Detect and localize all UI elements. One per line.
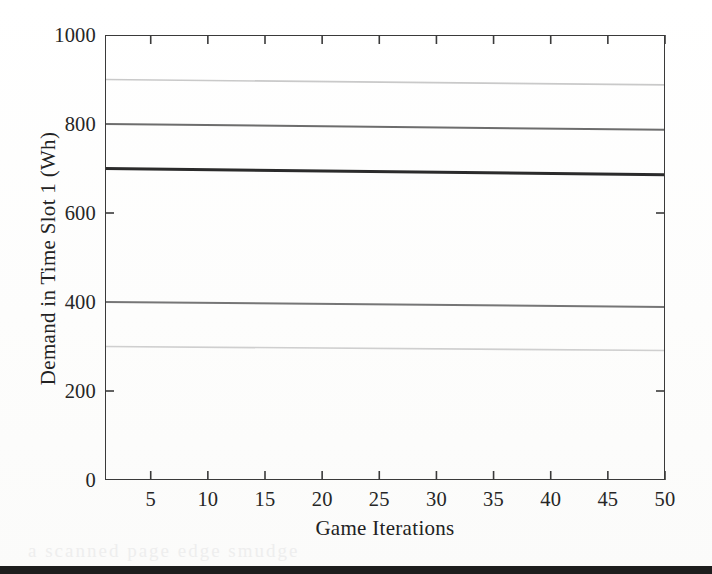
- y-axis-tick-label: 600: [65, 203, 96, 224]
- x-axis-tick-label: 10: [197, 489, 218, 510]
- scan-smudge-text: a scanned page edge smudge: [28, 540, 588, 562]
- plot-frame-border: [105, 35, 665, 480]
- plot-area: [105, 35, 665, 480]
- x-axis-tick-label: 5: [145, 489, 155, 510]
- y-axis-tick-label: 1000: [54, 25, 96, 46]
- x-axis-tick-label: 20: [312, 489, 333, 510]
- x-axis-tick-label: 30: [426, 489, 447, 510]
- x-axis-tick-label: 35: [483, 489, 504, 510]
- x-axis-tick-label: 40: [540, 489, 561, 510]
- x-axis-tick-label: 25: [369, 489, 390, 510]
- y-axis-tick-label: 0: [86, 470, 96, 491]
- x-axis-tick-label: 45: [597, 489, 618, 510]
- x-axis-tick-labels: 5101520253035404550: [105, 489, 665, 515]
- x-axis-tick-label: 15: [255, 489, 276, 510]
- y-axis-tick-label: 400: [65, 292, 96, 313]
- y-axis-tick-labels: 02004006008001000: [0, 35, 96, 480]
- x-axis-title: Game Iterations: [105, 516, 665, 541]
- figure-container: Demand in Time Slot 1 (Wh) 0200400600800…: [0, 0, 712, 574]
- x-axis-tick-label: 50: [655, 489, 676, 510]
- page-bottom-bar: [0, 566, 712, 574]
- y-axis-tick-label: 800: [65, 114, 96, 135]
- y-axis-tick-label: 200: [65, 381, 96, 402]
